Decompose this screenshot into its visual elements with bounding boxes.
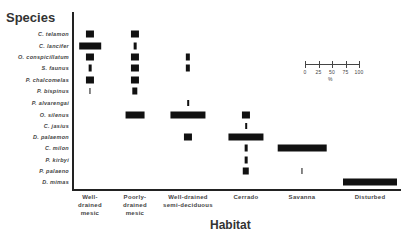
species-label: P. bispinus [37,88,69,94]
occurrence-bar [186,54,190,61]
occurrence-bar [245,145,248,152]
scale-tick-label: 0 [303,69,306,75]
occurrence-bar [86,54,94,61]
y-axis-line [72,12,74,191]
scale-tick-label: 75 [342,69,348,75]
species-label: D. mimas [42,179,69,185]
habitat-label: Poorly- drained mesic [123,193,147,217]
occurrence-bar [134,43,137,50]
occurrence-bar [301,168,302,174]
occurrence-bar [131,54,139,61]
species-label: P. alvarengai [32,100,69,106]
occurrence-bar [131,77,139,84]
scale-tick [319,61,320,68]
species-label: S. faunus [42,65,69,71]
habitat-label: Savanna [289,193,316,201]
occurrence-bar [186,65,190,72]
occurrence-bar [79,43,101,50]
habitat-label: Well- drained mesic [78,193,102,217]
habitat-label: Well-drained semi-deciduous [163,193,213,209]
occurrence-bar [126,112,145,119]
y-axis-title: Species [6,10,55,25]
species-label: C. telamon [38,31,69,37]
scale-tick [305,61,306,68]
occurrence-bar [131,65,139,72]
scale-tick-label: 50 [329,69,335,75]
habitat-label: Cerrado [233,193,258,201]
occurrence-bar [131,31,139,38]
species-label: P. palaeno [39,168,69,174]
scale-tick [346,61,347,68]
occurrence-bar [243,168,249,175]
occurrence-bar [245,157,248,164]
scale-tick [359,61,360,68]
scale-tick [332,61,333,68]
occurrence-bar [228,134,263,141]
scale-tick-label: 100 [354,69,363,75]
species-label: C. jasius [44,123,69,129]
occurrence-bar [89,88,90,94]
scale-bar-legend: 0255075100 % [300,58,370,88]
occurrence-bar [89,65,92,72]
occurrence-bar [278,145,327,152]
species-label: O. silenus [40,112,69,118]
species-label: C. lancifer [39,43,69,49]
occurrence-bar [86,31,94,38]
occurrence-bar [184,134,192,141]
species-label: C. milon [45,145,69,151]
species-label: O. conspicillatum [18,54,69,60]
habitat-label: Disturbed [355,193,386,201]
occurrence-bar [132,88,137,95]
occurrence-bar [170,112,205,119]
occurrence-bar [245,123,247,129]
species-label: P. chalcomelas [26,77,69,83]
scale-unit: % [328,76,332,82]
x-axis-title: Habitat [210,218,251,232]
occurrence-bar [242,112,250,119]
occurrence-bar [343,179,397,186]
species-label: D. palaemon [33,134,69,140]
occurrence-bar [86,77,94,84]
species-label: P. kirbyi [46,157,69,163]
occurrence-bar [187,100,189,106]
scale-tick-label: 25 [315,69,321,75]
x-axis-line [72,189,401,191]
